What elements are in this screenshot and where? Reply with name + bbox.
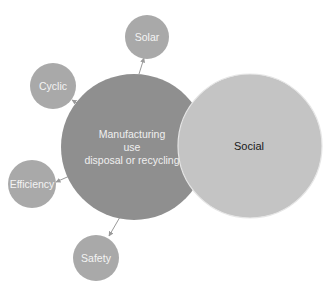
satellite-cyclic: Cyclic bbox=[30, 63, 76, 109]
satellite-efficiency: Efficiency bbox=[8, 160, 56, 208]
lifecycle-line-1: Manufacturing bbox=[99, 128, 166, 140]
lifecycle-line-3: disposal or recycling bbox=[84, 154, 179, 166]
lifecycle-line-2: use bbox=[124, 141, 141, 153]
social-node: Social bbox=[178, 74, 322, 218]
satellite-solar: Solar bbox=[125, 15, 169, 59]
safety-label: Safety bbox=[81, 252, 112, 264]
efficiency-label: Efficiency bbox=[10, 178, 55, 190]
connector-solar bbox=[139, 58, 144, 74]
connector-safety bbox=[109, 217, 120, 236]
satellite-safety: Safety bbox=[73, 235, 119, 281]
solar-label: Solar bbox=[135, 31, 160, 43]
cyclic-label: Cyclic bbox=[39, 80, 67, 92]
diagram-canvas: Solar Cyclic Efficiency Safety Manufactu… bbox=[0, 0, 327, 293]
social-label: Social bbox=[234, 140, 264, 152]
